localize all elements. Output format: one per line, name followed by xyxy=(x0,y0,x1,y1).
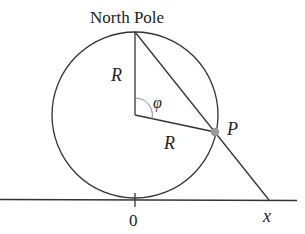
angle-label: φ xyxy=(153,94,162,112)
projection-line xyxy=(135,32,269,200)
north-pole-label: North Pole xyxy=(90,8,164,27)
stereographic-projection-diagram: North Pole R φ R P 0 x xyxy=(0,0,305,234)
radius-label-vertical: R xyxy=(110,65,122,85)
radius-label-slant: R xyxy=(163,133,175,153)
x-label: x xyxy=(262,206,271,226)
point-p xyxy=(211,128,219,136)
origin-label: 0 xyxy=(129,211,138,230)
point-p-label: P xyxy=(226,119,238,139)
x-axis-line xyxy=(0,200,297,201)
